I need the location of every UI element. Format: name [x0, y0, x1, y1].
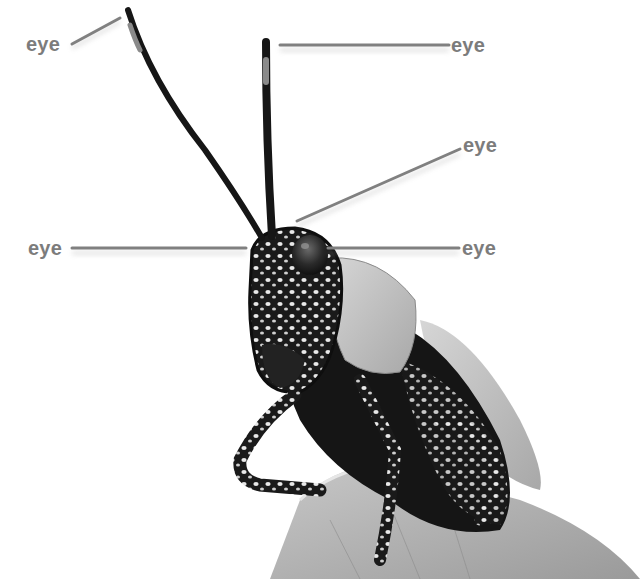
eye-label-upper-right: eye [463, 135, 497, 155]
grasshopper-illustration [0, 0, 640, 579]
diagram-stage: eye eye eye eye eye [0, 0, 640, 579]
leader-line-3 [297, 149, 460, 221]
eye-label-mid-right: eye [462, 238, 496, 258]
antennae [128, 10, 272, 238]
compound-eye [292, 235, 328, 275]
eye-label-top-right: eye [451, 35, 485, 55]
eye-label-mid-left: eye [28, 238, 62, 258]
leader-line-1 [72, 18, 120, 44]
eye-label-top-left: eye [26, 34, 60, 54]
